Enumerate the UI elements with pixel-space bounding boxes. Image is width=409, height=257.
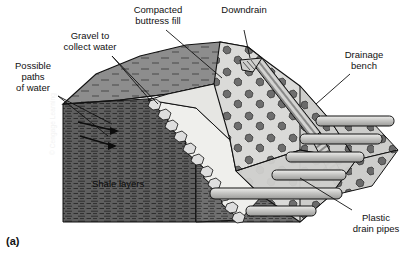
figure-panel-label: (a) — [6, 236, 36, 247]
copyright-credit: © Cengage Learning — [49, 85, 61, 155]
leader-drainage-bench — [316, 74, 350, 104]
label-downdrain: Downdrain — [206, 4, 282, 15]
drain-pipe — [316, 116, 394, 126]
drain-pipe — [300, 134, 382, 144]
label-compacted-buttress-fill: Compacted buttress fill — [112, 4, 204, 26]
label-drainage-bench: Drainage bench — [322, 49, 406, 71]
drain-pipe — [210, 188, 342, 199]
drain-pipe — [286, 152, 364, 162]
drain-pipe — [246, 206, 316, 216]
label-plastic-drain-pipes: Plastic drain pipes — [344, 212, 408, 234]
label-gravel-to-collect-water: Gravel to collect water — [42, 30, 138, 52]
label-shale-layers: Shale layers — [92, 178, 172, 189]
drain-pipe — [272, 170, 346, 180]
